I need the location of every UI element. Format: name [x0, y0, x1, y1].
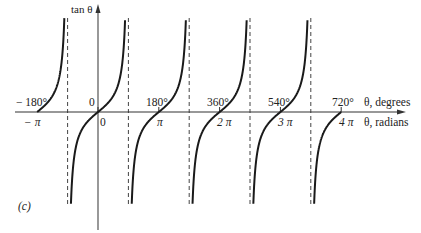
- rad-tick-label: 2 π: [217, 117, 231, 129]
- deg-tick-label: 180°: [146, 97, 168, 109]
- rad-tick-label: 3 π: [278, 117, 292, 129]
- y-axis-label: tan θ: [71, 4, 92, 15]
- rad-tick-label: 4 π: [339, 117, 353, 129]
- deg-axis-label: θ, degrees: [364, 97, 410, 109]
- tan-branch: [314, 112, 341, 204]
- y-axis-arrow-icon: [96, 4, 101, 13]
- rad-axis-label: θ, radians: [364, 117, 408, 129]
- panel-label: (c): [18, 201, 31, 213]
- deg-tick-label: 720°: [332, 97, 354, 109]
- deg-tick-label: 0: [89, 97, 95, 109]
- rad-tick-label: π: [157, 117, 163, 129]
- tangent-plot: [0, 0, 421, 233]
- deg-tick-label: 540°: [268, 97, 290, 109]
- x-axis-arrow-icon: [397, 110, 406, 115]
- deg-tick-label: − 180°: [16, 97, 47, 109]
- rad-tick-label: 0: [100, 117, 106, 129]
- deg-tick-label: 360°: [207, 97, 229, 109]
- rad-tick-label: − π: [24, 117, 40, 129]
